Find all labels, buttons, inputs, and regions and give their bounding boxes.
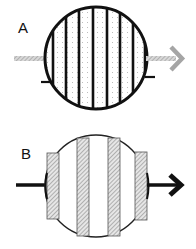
output-arrow-gray (146, 47, 182, 70)
circle-outline (45, 135, 147, 237)
panel-a-label: A (18, 19, 28, 36)
striped-circle (44, 0, 148, 120)
output-arrow-black (147, 175, 181, 195)
hatched-bar-3 (108, 138, 120, 236)
hatched-bar-1 (47, 153, 59, 219)
barred-circle (45, 135, 149, 237)
hatched-bar-2 (77, 138, 89, 236)
panel-b: B (16, 135, 181, 237)
panel-a: A (14, 0, 182, 120)
hatched-bar-4 (135, 152, 147, 220)
panel-b-label: B (21, 145, 31, 162)
input-arrow-shaft (14, 56, 46, 61)
